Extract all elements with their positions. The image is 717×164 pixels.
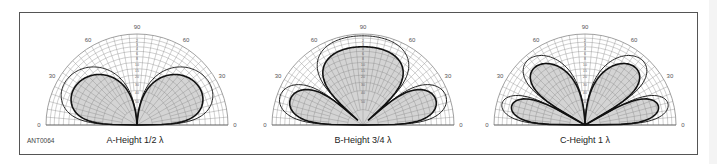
radial-tick-label: 15 (361, 69, 365, 73)
angle-tick-label: 60 (409, 37, 416, 43)
radial-tick-label: 6 (136, 52, 138, 56)
angle-tick-label: 30 (445, 73, 452, 79)
angle-tick-label: 60 (533, 37, 540, 43)
angle-tick-label: 30 (49, 73, 56, 79)
caption-c: C-Height 1 λ (560, 135, 610, 145)
angle-tick-label: 0 (459, 122, 463, 128)
figure-id: ANT0064 (27, 137, 54, 144)
radial-tick-label: 30 (135, 83, 139, 87)
radial-tick-label: 15 (583, 69, 587, 73)
radial-tick-label: 4 (362, 47, 364, 51)
radial-tick-label: 50 (361, 100, 365, 104)
radial-tick-label: 4 (136, 47, 138, 51)
radial-tick-label: 40 (361, 91, 365, 95)
radial-tick-label: 8 (136, 57, 138, 61)
polar-plot-b: 03060906030023468101520304050 (263, 24, 463, 128)
angle-tick-label: 0 (485, 122, 489, 128)
radial-tick-label: 20 (583, 75, 587, 79)
angle-tick-label: 0 (263, 122, 267, 128)
radial-tick-label: 4 (584, 47, 586, 51)
angle-tick-label: 30 (219, 73, 226, 79)
radial-tick-label: 15 (135, 69, 139, 73)
radial-tick-label: 30 (583, 83, 587, 87)
caption-b: B-Height 3/4 λ (334, 135, 391, 145)
radial-tick-label: 3 (584, 43, 586, 47)
radial-tick-label: 40 (135, 91, 139, 95)
radial-tick-label: 10 (135, 63, 139, 67)
angle-tick-label: 30 (497, 73, 504, 79)
angle-tick-label: 0 (681, 122, 685, 128)
radial-tick-label: 3 (136, 43, 138, 47)
angle-tick-label: 0 (37, 122, 41, 128)
angle-tick-label: 30 (667, 73, 674, 79)
caption-a: A-Height 1/2 λ (106, 135, 163, 145)
radial-tick-label: 50 (135, 100, 139, 104)
radial-tick-label: 30 (361, 83, 365, 87)
angle-tick-label: 90 (360, 24, 367, 30)
radial-tick-label: 8 (584, 57, 586, 61)
radial-tick-label: 40 (583, 91, 587, 95)
radial-tick-label: 6 (584, 52, 586, 56)
radial-tick-label: 3 (362, 43, 364, 47)
radial-tick-label: 50 (583, 100, 587, 104)
radial-tick-label: 10 (583, 63, 587, 67)
angle-tick-label: 0 (233, 122, 237, 128)
page-edge (709, 0, 717, 164)
radial-tick-label: 6 (362, 52, 364, 56)
angle-tick-label: 60 (183, 37, 190, 43)
polar-plot-a: 03060906030023468101520304050 (37, 24, 237, 128)
angle-tick-label: 30 (275, 73, 282, 79)
radial-tick-label: 20 (135, 75, 139, 79)
angle-tick-label: 60 (85, 37, 92, 43)
angle-tick-label: 60 (311, 37, 318, 43)
angle-tick-label: 60 (631, 37, 638, 43)
angle-tick-label: 90 (582, 24, 589, 30)
angle-tick-label: 90 (134, 24, 141, 30)
radial-tick-label: 20 (361, 75, 365, 79)
radial-tick-label: 10 (361, 63, 365, 67)
polar-plot-c: 03060906030023468101520304050 (485, 24, 685, 128)
radial-tick-label: 8 (362, 57, 364, 61)
